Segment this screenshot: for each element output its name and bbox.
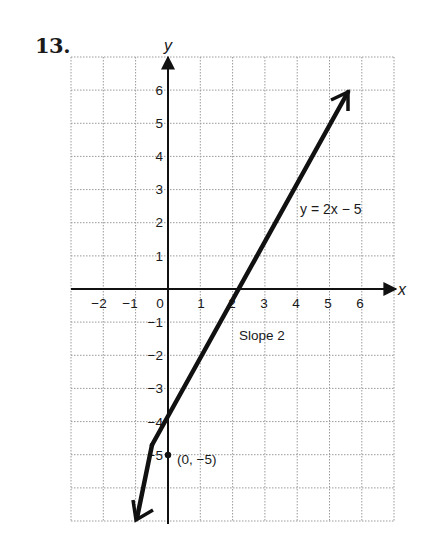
- x-tick: −2: [91, 296, 106, 311]
- figure: 13.: [0, 0, 432, 539]
- y-tick: 6: [155, 83, 163, 98]
- y-tick: −2: [148, 348, 163, 363]
- y-tick: −3: [148, 381, 163, 396]
- x-tick: 1: [197, 296, 205, 311]
- y-tick: 2: [155, 215, 163, 230]
- y-tick: 3: [155, 182, 163, 197]
- y-axis-label: y: [163, 37, 173, 54]
- x-tick: 4: [292, 296, 300, 311]
- line-y-equals-2x-minus-5: [152, 92, 348, 445]
- equation-label: y = 2x − 5: [300, 201, 362, 217]
- y-tick: 5: [155, 116, 163, 131]
- y-tick: 1: [155, 249, 163, 264]
- intercept-label: (0, −5): [177, 452, 216, 467]
- arrowhead-lower-icon: [133, 500, 153, 520]
- coordinate-plane: x y −2 −1 0 1 2 3 4 5 6 6 5 4 3 2 1 −1 −…: [0, 0, 432, 539]
- y-intercept-point: [165, 452, 171, 458]
- line-lower-segment: [137, 445, 152, 518]
- x-tick: −1: [122, 296, 137, 311]
- slope-label: Slope 2: [239, 328, 285, 343]
- x-tick: 0: [156, 296, 164, 311]
- x-axis-label: x: [397, 281, 407, 298]
- y-tick-labels: 6 5 4 3 2 1 −1 −2 −3 −4 −5: [148, 83, 164, 463]
- x-tick: 6: [356, 296, 364, 311]
- y-tick: −1: [148, 315, 163, 330]
- y-tick: 4: [155, 149, 163, 164]
- x-tick: 5: [324, 296, 332, 311]
- problem-number: 13.: [35, 33, 70, 58]
- x-tick: 3: [260, 296, 268, 311]
